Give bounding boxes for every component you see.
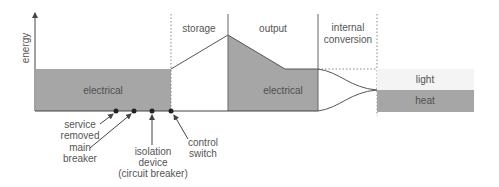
callout-isolation: isolation — [135, 146, 172, 157]
callout-breaker: breaker — [63, 153, 98, 164]
arrow-service-removed — [100, 114, 113, 124]
callout-circuit-breaker: (circuit breaker) — [118, 168, 187, 179]
stage-label-internal: internal — [332, 22, 365, 33]
input-electrical-label: electrical — [83, 85, 122, 96]
light-label: light — [416, 74, 435, 85]
dot-control-switch — [169, 109, 174, 114]
arrow-control-switch — [174, 115, 188, 139]
dot-service-removed — [114, 109, 119, 114]
callout-removed: removed — [61, 130, 100, 141]
energy-flow-diagram: electrical storage output electrical int… — [0, 0, 499, 187]
callout-switch: switch — [189, 148, 217, 159]
stage-label-storage: storage — [182, 23, 216, 34]
heat-label: heat — [415, 95, 435, 106]
conversion-upper-curve — [318, 69, 377, 90]
storage-rise-line — [171, 35, 228, 69]
stage-label-output: output — [259, 23, 287, 34]
callout-device: device — [139, 157, 168, 168]
dot-main-breaker — [132, 109, 137, 114]
output-electrical-label: electrical — [263, 85, 302, 96]
callout-control: control — [188, 137, 218, 148]
dot-isolation-device — [150, 109, 155, 114]
callout-service: service — [64, 119, 96, 130]
stage-label-conversion: conversion — [324, 34, 372, 45]
callout-main: main — [69, 142, 91, 153]
y-axis-label: energy — [20, 33, 31, 64]
conversion-lower-curve — [318, 90, 377, 111]
output-electrical-region — [228, 35, 318, 111]
